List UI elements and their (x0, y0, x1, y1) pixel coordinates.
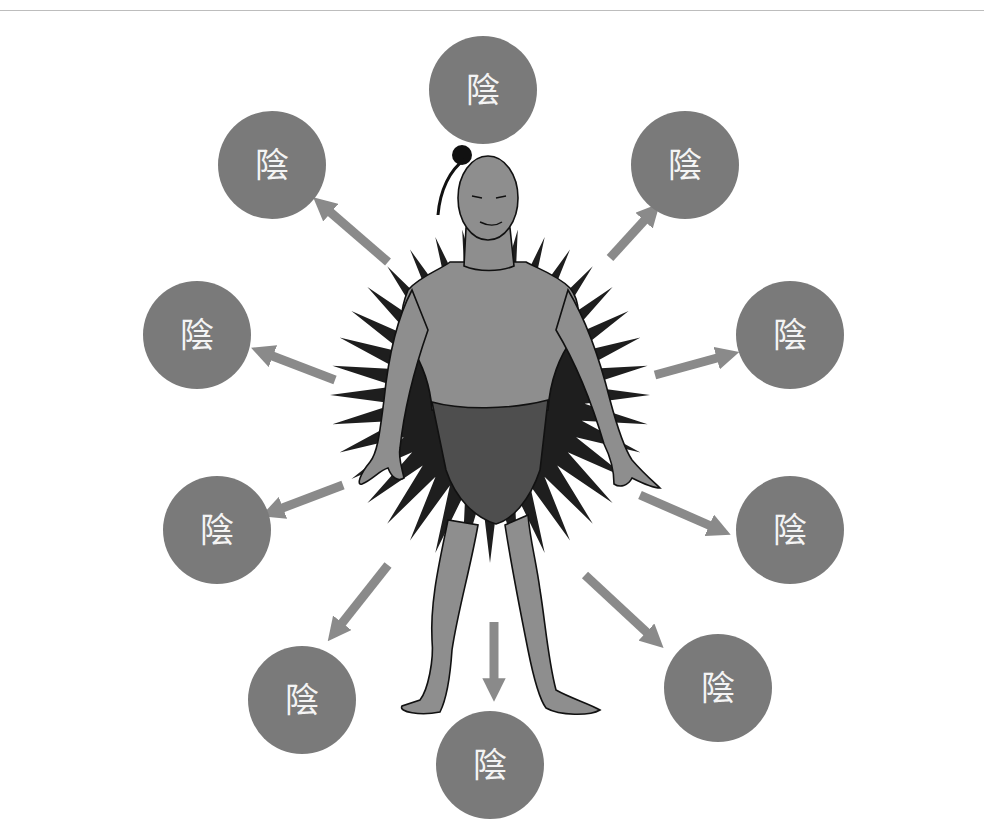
left-leg (402, 520, 478, 714)
arrow-to-upper-left (322, 205, 388, 262)
yin-label: 陰 (285, 680, 319, 720)
arrow-to-bottom-right (585, 575, 655, 640)
arrow-to-upper-right (610, 212, 652, 258)
arrow-to-right (655, 355, 728, 375)
yin-node-top: 陰 (429, 36, 537, 144)
yin-label: 陰 (466, 70, 500, 110)
arrow-to-bottom-left (335, 565, 388, 632)
yin-node-upper-right: 陰 (631, 111, 739, 219)
yin-node-lower-left: 陰 (163, 476, 271, 584)
yin-node-bottom-right: 陰 (664, 634, 772, 742)
yin-label: 陰 (473, 745, 507, 785)
yin-node-bottom-left: 陰 (248, 646, 356, 754)
arrow-to-lower-left (272, 485, 343, 512)
yin-node-upper-left: 陰 (218, 111, 326, 219)
right-leg (505, 515, 600, 714)
yin-node-left: 陰 (143, 281, 251, 389)
yin-label: 陰 (668, 145, 702, 185)
yin-label: 陰 (255, 145, 289, 185)
yin-diagram: 陰陰陰陰陰陰陰陰陰陰 (0, 0, 984, 827)
yin-node-lower-right: 陰 (736, 476, 844, 584)
yin-label: 陰 (773, 510, 807, 550)
yin-label: 陰 (701, 668, 735, 708)
head (458, 156, 518, 240)
arrow-to-lower-right (640, 495, 720, 530)
yin-label: 陰 (200, 510, 234, 550)
arrow-to-left (262, 352, 335, 380)
yin-node-right: 陰 (736, 281, 844, 389)
yin-label: 陰 (180, 315, 214, 355)
yin-label: 陰 (773, 315, 807, 355)
yin-node-bottom: 陰 (436, 711, 544, 819)
